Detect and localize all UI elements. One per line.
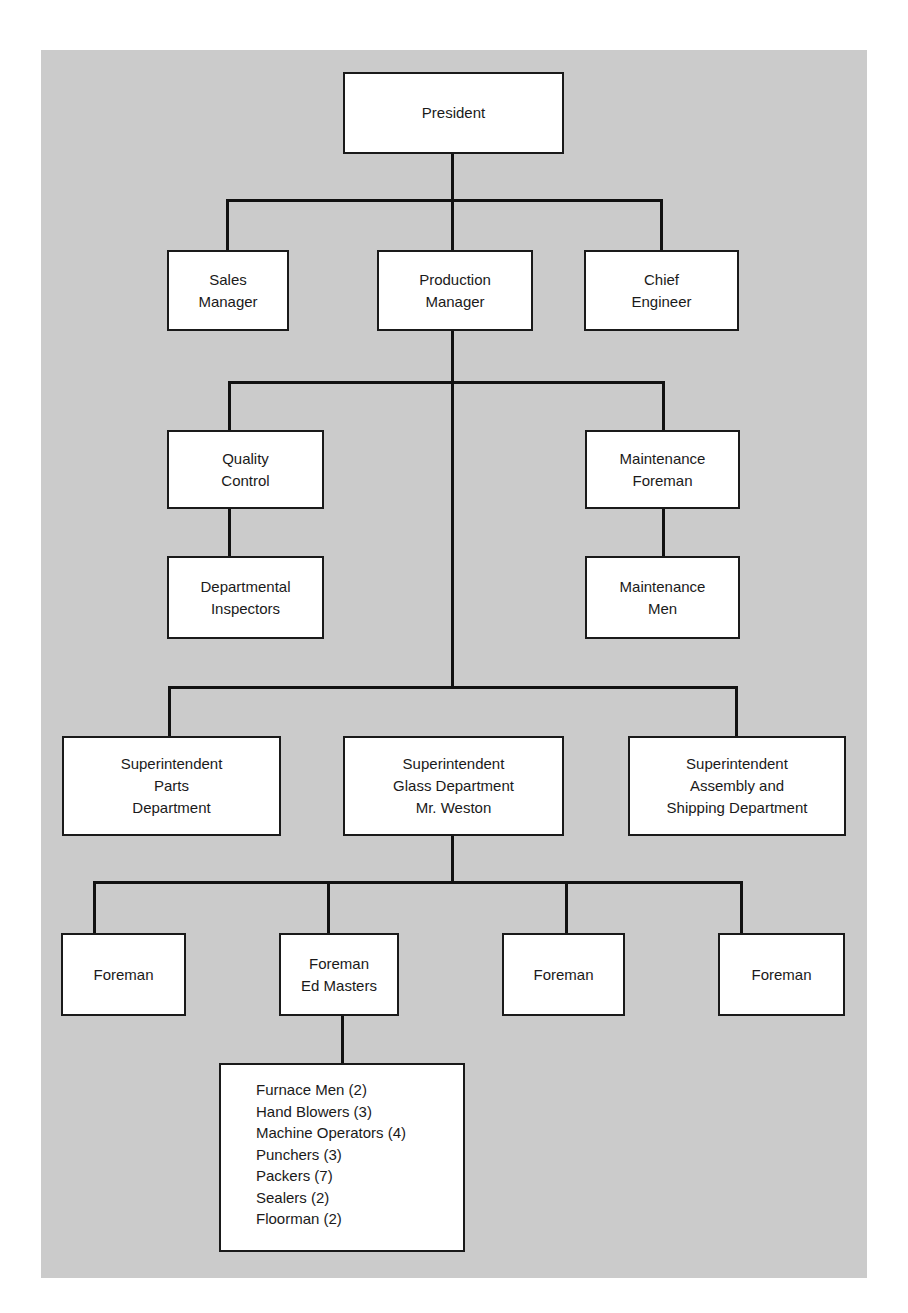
connector-line bbox=[168, 686, 171, 738]
connector-line bbox=[228, 381, 231, 431]
node-chief-engineer: Chief Engineer bbox=[584, 250, 739, 331]
node-label: Departmental Inspectors bbox=[200, 576, 290, 620]
crew-item: Punchers (3) bbox=[256, 1144, 463, 1166]
node-superintendent-parts: Superintendent Parts Department bbox=[62, 736, 281, 836]
node-label: Superintendent Glass Department Mr. West… bbox=[393, 753, 514, 819]
connector-line bbox=[565, 881, 568, 934]
node-foreman: Foreman bbox=[718, 933, 845, 1016]
node-label: Maintenance Men bbox=[620, 576, 706, 620]
node-label: Production Manager bbox=[419, 269, 491, 313]
connector-line bbox=[327, 881, 330, 934]
node-label: Sales Manager bbox=[198, 269, 257, 313]
node-label: Foreman Ed Masters bbox=[301, 953, 377, 997]
node-sales-manager: Sales Manager bbox=[167, 250, 289, 331]
node-label: Maintenance Foreman bbox=[620, 448, 706, 492]
crew-item: Furnace Men (2) bbox=[256, 1079, 463, 1101]
node-president: President bbox=[343, 72, 564, 154]
node-label: Superintendent Parts Department bbox=[121, 753, 223, 819]
node-departmental-inspectors: Departmental Inspectors bbox=[167, 556, 324, 639]
connector-line bbox=[228, 508, 231, 557]
node-foreman: Foreman bbox=[502, 933, 625, 1016]
node-label: Foreman bbox=[93, 964, 153, 986]
node-superintendent-assembly: Superintendent Assembly and Shipping Dep… bbox=[628, 736, 846, 836]
crew-item: Floorman (2) bbox=[256, 1208, 463, 1230]
connector-line bbox=[341, 1015, 344, 1064]
connector-line bbox=[740, 881, 743, 934]
crew-item: Machine Operators (4) bbox=[256, 1122, 463, 1144]
node-crew-list: Furnace Men (2) Hand Blowers (3) Machine… bbox=[219, 1063, 465, 1252]
node-label: Quality Control bbox=[221, 448, 269, 492]
crew-item: Hand Blowers (3) bbox=[256, 1101, 463, 1123]
node-foreman-ed-masters: Foreman Ed Masters bbox=[279, 933, 399, 1016]
connector-line bbox=[660, 199, 663, 251]
crew-item: Sealers (2) bbox=[256, 1187, 463, 1209]
node-label: Chief Engineer bbox=[631, 269, 691, 313]
crew-item: Packers (7) bbox=[256, 1165, 463, 1187]
connector-line bbox=[735, 686, 738, 738]
connector-line bbox=[451, 835, 454, 883]
node-maintenance-men: Maintenance Men bbox=[585, 556, 740, 639]
node-label: President bbox=[422, 102, 485, 124]
connector-line bbox=[228, 381, 665, 384]
connector-line bbox=[451, 153, 454, 251]
connector-line bbox=[662, 381, 665, 431]
connector-line bbox=[226, 199, 229, 251]
node-foreman: Foreman bbox=[61, 933, 186, 1016]
connector-line bbox=[226, 199, 663, 202]
node-quality-control: Quality Control bbox=[167, 430, 324, 509]
connector-line bbox=[93, 881, 96, 934]
node-superintendent-glass: Superintendent Glass Department Mr. West… bbox=[343, 736, 564, 836]
connector-line bbox=[662, 508, 665, 557]
node-production-manager: Production Manager bbox=[377, 250, 533, 331]
node-label: Foreman bbox=[533, 964, 593, 986]
connector-line bbox=[168, 686, 738, 689]
node-label: Superintendent Assembly and Shipping Dep… bbox=[667, 753, 808, 819]
node-label: Foreman bbox=[751, 964, 811, 986]
connector-line bbox=[93, 881, 743, 884]
node-maintenance-foreman: Maintenance Foreman bbox=[585, 430, 740, 509]
